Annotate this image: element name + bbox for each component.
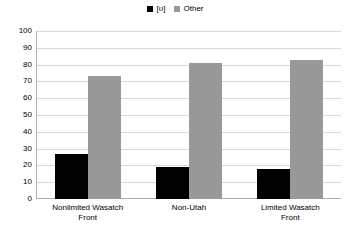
y-tick-label-100: 100 [4, 27, 32, 35]
y-tick-label-0: 0 [4, 195, 32, 203]
bar-group [37, 31, 138, 199]
y-axis-tick-labels: 1009080706050403020100 [0, 31, 32, 199]
y-tick-label-60: 60 [4, 94, 32, 102]
legend-swatch-series-one [147, 6, 153, 12]
bar-series-one[interactable] [156, 167, 189, 199]
y-tick-label-70: 70 [4, 77, 32, 85]
x-category-label: Limited Wasatch Front [240, 203, 341, 223]
y-tick-label-20: 20 [4, 161, 32, 169]
bar-groups [37, 31, 341, 199]
legend-label-series-two: Other [183, 4, 203, 13]
bar-series-one[interactable] [257, 169, 290, 199]
x-category-label: Nonlimited Wasatch Front [37, 203, 138, 223]
y-tick-label-50: 50 [4, 111, 32, 119]
bar-series-two[interactable] [290, 60, 323, 199]
y-tick-label-40: 40 [4, 128, 32, 136]
bar-chart: [ʊ] Other 1009080706050403020100 Nonlimi… [0, 0, 351, 237]
x-category-label: Non-Utah [138, 203, 239, 223]
legend-label-series-one: [ʊ] [156, 4, 165, 13]
bar-series-two[interactable] [189, 63, 222, 199]
bar-group [240, 31, 341, 199]
y-tick-label-30: 30 [4, 145, 32, 153]
bar-group [138, 31, 239, 199]
bar-series-one[interactable] [55, 154, 88, 199]
legend-swatch-series-two [174, 6, 180, 12]
x-axis-category-labels: Nonlimited Wasatch FrontNon-UtahLimited … [37, 203, 341, 223]
gridline-0 [37, 199, 341, 200]
legend-entry-series-one: [ʊ] [147, 4, 165, 13]
y-tick-label-80: 80 [4, 61, 32, 69]
y-tick-label-10: 10 [4, 178, 32, 186]
bar-series-two[interactable] [88, 76, 121, 199]
y-tick-label-90: 90 [4, 44, 32, 52]
legend-entry-series-two: Other [174, 4, 203, 13]
chart-legend: [ʊ] Other [0, 4, 351, 13]
